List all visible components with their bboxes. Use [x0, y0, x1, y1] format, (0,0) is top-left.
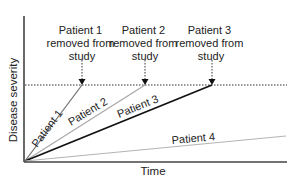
annotation-patient-2: Patient 2 removed from study	[110, 24, 181, 62]
annotation-arrow-patient-1	[79, 60, 86, 85]
label-patient-1: Patient 1	[29, 107, 65, 149]
annotation-arrow-patient-2	[142, 60, 149, 85]
y-axis-title: Disease severity	[7, 58, 19, 143]
annotation-patient-3: Patient 3 removed from study	[176, 24, 247, 62]
annotation-patient-1: Patient 1 removed from study	[47, 24, 118, 62]
chart: Patient 1 removed from study Patient 2 r…	[0, 0, 296, 182]
line-patient-4	[25, 136, 286, 161]
x-axis-title: Time	[140, 165, 165, 177]
annotation-arrow-patient-3	[209, 60, 216, 85]
